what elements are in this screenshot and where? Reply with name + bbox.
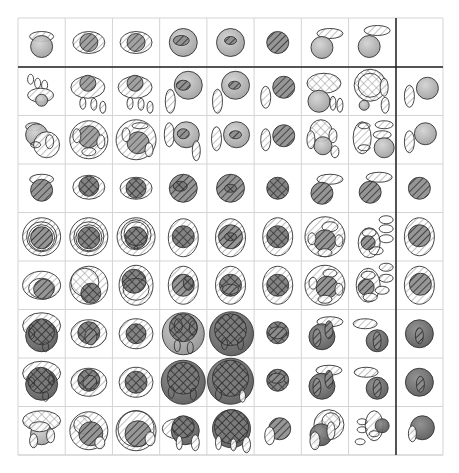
circle-shape: [125, 371, 147, 393]
cell-r4-c5: [263, 218, 293, 256]
cell-r3-c5: [267, 177, 289, 199]
matrix-cells: [23, 26, 439, 453]
cell-r3-c2: [120, 177, 152, 199]
ellipse-shape: [35, 78, 41, 88]
cell-r7-c0: [23, 361, 61, 401]
ellipse-shape: [192, 141, 200, 161]
ellipse-shape: [309, 277, 317, 289]
cell-r0-c2: [120, 32, 152, 54]
ellipse-shape: [173, 36, 189, 46]
ellipse-shape: [330, 96, 336, 110]
ellipse-shape: [164, 123, 174, 147]
ellipse-shape: [80, 97, 86, 109]
ellipse-shape: [331, 146, 339, 158]
ellipse-shape: [127, 97, 133, 109]
circle-shape: [81, 283, 101, 303]
ellipse-shape: [138, 98, 144, 110]
ellipse-shape: [47, 429, 55, 443]
circle-shape: [126, 324, 146, 344]
ellipse-shape: [379, 235, 393, 243]
ellipse-shape: [318, 249, 332, 257]
circle-shape: [28, 367, 54, 393]
circle-shape: [408, 225, 430, 247]
ellipse-shape: [353, 122, 371, 154]
cell-r8-c7: [355, 411, 389, 445]
ellipse-shape: [416, 376, 424, 392]
circle-shape: [29, 319, 55, 345]
cell-r5-c6: [305, 265, 345, 305]
ellipse-shape: [165, 89, 175, 113]
ellipse-shape: [85, 329, 97, 345]
circle-shape: [172, 226, 194, 248]
circle-shape: [80, 34, 98, 52]
circle-shape: [172, 416, 194, 438]
ellipse-shape: [355, 439, 365, 445]
ellipse-shape: [354, 367, 378, 377]
ellipse-shape: [310, 432, 320, 450]
circle-shape: [267, 274, 289, 296]
ellipse-shape: [307, 131, 315, 149]
ellipse-shape: [379, 263, 393, 271]
circle-shape: [308, 90, 330, 112]
ellipse-shape: [95, 437, 105, 449]
ellipse-shape: [335, 235, 343, 247]
cell-r5-c8: [404, 266, 434, 304]
ellipse-shape: [30, 422, 50, 432]
cell-r4-c7: [358, 216, 393, 258]
circle-shape: [374, 138, 394, 158]
ellipse-shape: [225, 233, 237, 241]
ellipse-shape: [122, 128, 130, 142]
cell-r8-c6: [310, 410, 344, 450]
cell-r2-c6: [307, 120, 339, 158]
cell-r5-c5: [263, 266, 293, 304]
circle-shape: [414, 123, 436, 145]
ellipse-shape: [145, 432, 155, 446]
cell-r4-c4: [216, 219, 246, 257]
circle-shape: [311, 37, 333, 59]
ellipse-shape: [83, 375, 97, 389]
circle-shape: [359, 100, 369, 110]
circle-shape: [79, 176, 99, 196]
circle-shape: [273, 125, 295, 147]
ellipse-shape: [325, 321, 333, 339]
ellipse-shape: [307, 73, 341, 93]
circle-shape: [375, 419, 389, 433]
cell-r7-c2: [119, 367, 153, 397]
ellipse-shape: [363, 293, 377, 301]
cell-r7-c4: [208, 358, 254, 404]
cell-r1-c2: [118, 75, 153, 113]
ellipse-shape: [176, 80, 190, 90]
circle-shape: [311, 182, 333, 204]
cell-r1-c8: [404, 77, 438, 107]
cell-r0-c1: [73, 32, 105, 54]
ellipse-shape: [173, 181, 187, 191]
circle-shape: [267, 32, 289, 54]
circle-shape: [358, 279, 374, 295]
ellipse-shape: [313, 378, 321, 396]
cell-r2-c5: [261, 125, 295, 151]
circle-shape: [167, 362, 199, 394]
cell-r6-c6: [309, 317, 343, 350]
circle-shape: [36, 94, 48, 106]
shape-composition-matrix: [0, 0, 459, 473]
cell-r5-c7: [356, 263, 393, 302]
ellipse-shape: [212, 127, 222, 151]
cell-r3-c1: [73, 175, 105, 199]
ellipse-shape: [177, 129, 189, 139]
ellipse-shape: [269, 327, 287, 339]
ellipse-shape: [132, 123, 148, 129]
cell-r4-c8: [404, 218, 434, 256]
circle-shape: [31, 36, 53, 58]
cell-r1-c4: [213, 71, 250, 113]
ellipse-shape: [82, 148, 96, 156]
circle-shape: [359, 181, 381, 203]
cell-r3-c4: [217, 174, 245, 202]
ellipse-shape: [191, 435, 199, 451]
ellipse-shape: [379, 274, 393, 282]
cell-r0-c0: [30, 32, 54, 58]
cell-r6-c5: [267, 322, 289, 344]
circle-shape: [273, 76, 295, 98]
cell-r4-c3: [168, 219, 198, 257]
cell-r1-c1: [71, 75, 106, 113]
cell-r2-c0: [26, 123, 60, 158]
